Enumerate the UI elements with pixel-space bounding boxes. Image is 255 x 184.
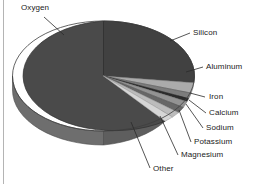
leader-line-oxygen [44, 17, 64, 35]
pie-label-calcium: Calcium [209, 108, 239, 117]
leader-line-iron [190, 93, 205, 97]
leader-line-potassium [179, 110, 191, 142]
pie-label-sodium: Sodium [206, 123, 234, 132]
pie-label-other: Other [153, 164, 174, 173]
leader-line-magnesium [160, 116, 178, 155]
leader-line-silicon [170, 33, 190, 41]
pie-chart-figure: Oxygen Silicon Aluminum Iron Calcium Sod… [0, 0, 255, 184]
pie-top-face [13, 21, 195, 131]
pie-label-iron: Iron [209, 92, 223, 101]
pie-label-oxygen: Oxygen [21, 3, 49, 12]
pie-label-magnesium: Magnesium [181, 150, 223, 159]
pie-slice-silicon[interactable] [104, 21, 195, 83]
leader-line-calcium [189, 100, 206, 113]
pie-label-potassium: Potassium [194, 137, 232, 146]
pie-label-aluminum: Aluminum [206, 62, 242, 71]
pie-label-silicon: Silicon [193, 28, 217, 37]
leader-line-sodium [186, 104, 203, 128]
